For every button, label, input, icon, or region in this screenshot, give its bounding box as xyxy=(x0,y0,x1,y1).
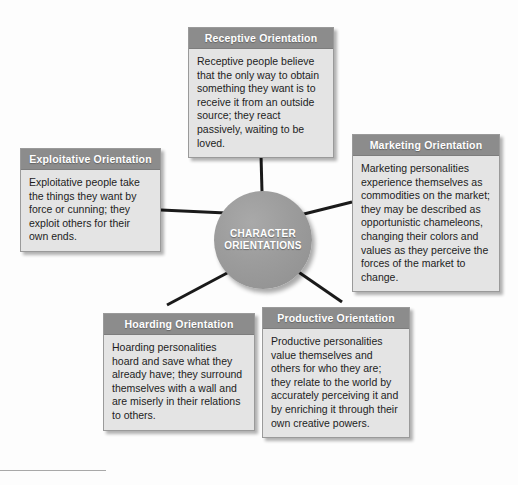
center-node: CHARACTER ORIENTATIONS xyxy=(214,191,312,289)
center-node-label: CHARACTER ORIENTATIONS xyxy=(224,228,302,252)
connector-hoarding xyxy=(167,272,229,305)
node-receptive-orientation[interactable]: Receptive Orientation Receptive people b… xyxy=(188,27,334,158)
node-title-productive: Productive Orientation xyxy=(263,308,409,329)
diagram-canvas: CHARACTER ORIENTATIONS Receptive Orienta… xyxy=(0,0,518,485)
connector-marketing xyxy=(300,202,352,215)
node-hoarding-orientation[interactable]: Hoarding Orientation Hoarding personalit… xyxy=(103,313,255,431)
node-body-exploitative: Exploitative people take the things they… xyxy=(21,170,160,251)
node-exploitative-orientation[interactable]: Exploitative Orientation Exploitative pe… xyxy=(20,148,161,252)
connector-productive xyxy=(297,271,342,302)
node-title-marketing: Marketing Orientation xyxy=(353,135,499,156)
node-title-receptive: Receptive Orientation xyxy=(189,28,333,49)
node-title-exploitative: Exploitative Orientation xyxy=(21,149,160,170)
node-body-productive: Productive personalities value themselve… xyxy=(263,329,409,437)
connector-exploitative xyxy=(161,210,226,213)
node-marketing-orientation[interactable]: Marketing Orientation Marketing personal… xyxy=(352,134,500,292)
node-title-hoarding: Hoarding Orientation xyxy=(104,314,254,335)
node-body-marketing: Marketing personalities experience thems… xyxy=(353,156,499,291)
footnote-rule xyxy=(0,470,106,471)
connector-receptive xyxy=(261,155,262,192)
node-body-hoarding: Hoarding personalities hoard and save wh… xyxy=(104,335,254,430)
node-productive-orientation[interactable]: Productive Orientation Productive person… xyxy=(262,307,410,438)
node-body-receptive: Receptive people believe that the only w… xyxy=(189,49,333,157)
